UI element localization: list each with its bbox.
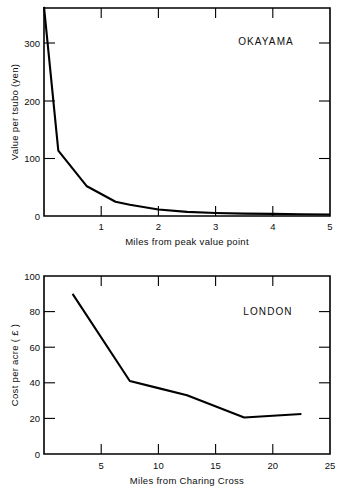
y-tick-label: 20 — [29, 413, 40, 424]
x-tick-label: 3 — [213, 221, 218, 232]
london-chart-svg: 100 80 60 40 20 0 5 10 — [0, 250, 343, 489]
london-y-tick-labels: 100 80 60 40 20 0 — [24, 271, 40, 460]
x-tick-label: 5 — [99, 460, 104, 471]
y-tick-label: 60 — [29, 342, 40, 353]
london-x-ticks — [101, 276, 273, 454]
x-tick-label: 25 — [325, 460, 336, 471]
london-x-axis-title: Miles from Charing Cross — [130, 475, 244, 486]
okayama-panel-title: OKAYAMA — [238, 36, 294, 47]
london-panel-title: LONDON — [243, 306, 292, 317]
london-x-tick-labels: 5 10 15 20 25 — [99, 460, 336, 471]
okayama-y-axis-title: Value per tsubo (yen) — [9, 64, 20, 160]
x-tick-label: 15 — [210, 460, 221, 471]
y-tick-label: 40 — [29, 377, 40, 388]
x-tick-label: 5 — [327, 221, 332, 232]
y-tick-label: 100 — [24, 153, 40, 164]
okayama-x-tick-labels: 1 2 3 4 5 — [99, 221, 333, 232]
chart-panel-okayama: 300 200 100 0 1 2 3 4 — [0, 0, 343, 250]
london-y-ticks — [44, 312, 330, 419]
y-tick-label: 300 — [24, 38, 40, 49]
okayama-chart-svg: 300 200 100 0 1 2 3 4 — [0, 0, 343, 250]
y-tick-label: 100 — [24, 271, 40, 282]
okayama-y-ticks — [44, 43, 330, 159]
y-tick-label: 80 — [29, 306, 40, 317]
x-tick-label: 10 — [153, 460, 164, 471]
chart-panel-london: 100 80 60 40 20 0 5 10 — [0, 250, 343, 489]
figure-container: 300 200 100 0 1 2 3 4 — [0, 0, 343, 489]
london-y-axis-title: Cost per acre ( £ ) — [9, 324, 20, 406]
okayama-y-tick-labels: 300 200 100 0 — [24, 38, 40, 222]
london-axes-frame — [44, 276, 330, 454]
x-tick-label: 20 — [268, 460, 279, 471]
x-tick-label: 2 — [156, 221, 161, 232]
y-tick-label: 0 — [35, 211, 40, 222]
x-tick-label: 4 — [270, 221, 275, 232]
y-tick-label: 0 — [35, 449, 40, 460]
y-tick-label: 200 — [24, 96, 40, 107]
okayama-x-axis-title: Miles from peak value point — [125, 236, 249, 247]
x-tick-label: 1 — [99, 221, 104, 232]
